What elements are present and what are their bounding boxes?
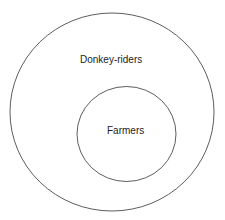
- donkey-riders-circle: [10, 13, 214, 211]
- farmers-label: Farmers: [107, 125, 144, 136]
- donkey-riders-label: Donkey-riders: [80, 54, 142, 65]
- euler-diagram: Donkey-riders Farmers: [0, 0, 225, 220]
